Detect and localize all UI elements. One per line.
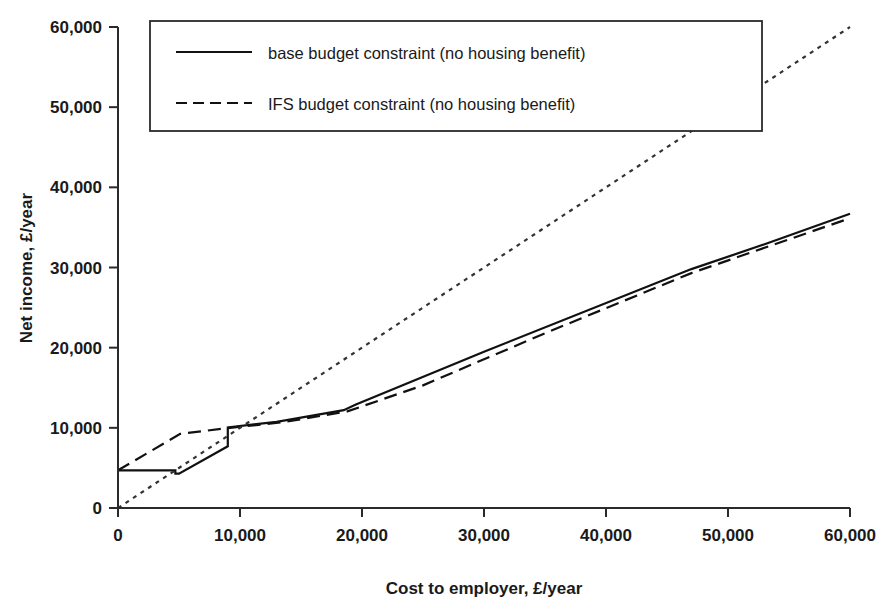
- x-tick-label: 30,000: [458, 526, 510, 545]
- chart-legend: base budget constraint (no housing benef…: [150, 21, 762, 131]
- x-tick-label: 20,000: [336, 526, 388, 545]
- x-tick-label: 40,000: [580, 526, 632, 545]
- y-tick-label: 30,000: [50, 259, 102, 278]
- budget-constraint-chart: 010,00020,00030,00040,00050,00060,000 01…: [0, 0, 892, 603]
- legend-label-ifs: IFS budget constraint (no housing benefi…: [268, 95, 575, 113]
- x-tick-label: 50,000: [702, 526, 754, 545]
- y-axis-ticks: 010,00020,00030,00040,00050,00060,000: [50, 18, 118, 518]
- y-tick-label: 40,000: [50, 178, 102, 197]
- legend-label-base: base budget constraint (no housing benef…: [268, 44, 585, 62]
- x-tick-label: 10,000: [214, 526, 266, 545]
- x-axis-ticks: 010,00020,00030,00040,00050,00060,000: [113, 508, 876, 545]
- series-base-line: [118, 214, 850, 474]
- y-axis-title: Net income, £/year: [17, 193, 36, 344]
- x-axis-title: Cost to employer, £/year: [386, 579, 583, 598]
- y-tick-label: 10,000: [50, 419, 102, 438]
- y-tick-label: 60,000: [50, 18, 102, 37]
- legend-box: [150, 21, 762, 131]
- y-tick-label: 20,000: [50, 339, 102, 358]
- y-tick-label: 0: [93, 499, 102, 518]
- x-tick-label: 60,000: [824, 526, 876, 545]
- y-tick-label: 50,000: [50, 98, 102, 117]
- x-tick-label: 0: [113, 526, 122, 545]
- chart-canvas: 010,00020,00030,00040,00050,00060,000 01…: [0, 0, 892, 603]
